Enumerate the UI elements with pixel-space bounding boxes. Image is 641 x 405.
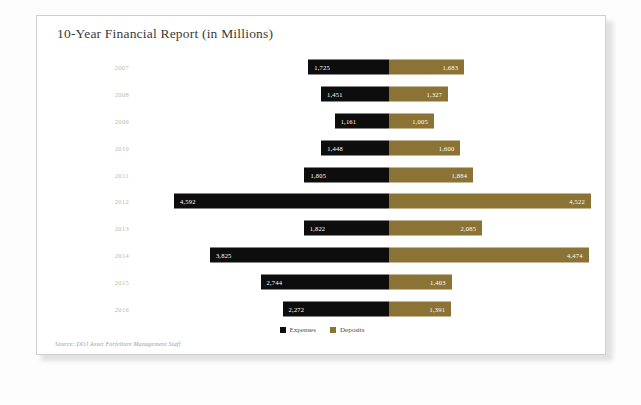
bar-track: 1,4511,327 [37,81,606,108]
chart-row: 20091,1611,005 [37,108,606,135]
bar-deposits[interactable]: 1,683 [389,60,464,75]
chart-row: 20152,7441,403 [37,268,606,295]
bar-track: 2,2721,391 [37,295,606,322]
legend-swatch-deposits [330,327,336,333]
bar-track: 2,7441,403 [37,268,606,295]
bar-deposits[interactable]: 2,085 [389,221,482,236]
chart-legend: ExpensesDeposits [37,326,606,334]
bar-value-deposits: 1,403 [430,278,446,285]
bar-value-deposits: 4,522 [569,198,585,205]
bar-expenses[interactable]: 1,451 [321,87,389,102]
bar-deposits[interactable]: 1,391 [389,301,451,316]
report-card: 10-Year Financial Report (in Millions) 2… [36,15,606,355]
bar-expenses[interactable]: 4,592 [174,194,389,209]
bar-value-expenses: 2,744 [267,278,283,285]
bar-deposits[interactable]: 1,884 [389,167,473,182]
page-root: 10-Year Financial Report (in Millions) 2… [0,0,641,405]
bar-expenses[interactable]: 2,744 [261,274,389,289]
bar-deposits[interactable]: 1,327 [389,87,448,102]
bar-value-deposits: 1,884 [451,171,467,178]
bar-value-expenses: 1,822 [310,225,326,232]
bar-expenses[interactable]: 2,272 [283,301,389,316]
bar-expenses[interactable]: 1,805 [304,167,389,182]
bar-deposits[interactable]: 1,403 [389,274,452,289]
bar-value-deposits: 1,600 [439,144,455,151]
legend-item-expenses[interactable]: Expenses [280,326,316,334]
bar-expenses[interactable]: 3,825 [210,247,389,262]
chart-row: 20124,5924,522 [37,188,606,215]
chart-row: 20101,4481,600 [37,134,606,161]
bar-value-expenses: 3,825 [216,251,232,258]
bar-value-deposits: 1,683 [443,64,459,71]
bar-track: 3,8254,474 [37,242,606,269]
bar-deposits[interactable]: 4,522 [389,194,591,209]
source-note: Source: DOJ Asset Forfeiture Management … [55,341,181,347]
bar-track: 1,8051,884 [37,161,606,188]
bar-expenses[interactable]: 1,822 [304,221,389,236]
bar-track: 1,4481,600 [37,134,606,161]
legend-swatch-expenses [280,327,286,333]
chart-row: 20071,7251,683 [37,54,606,81]
bar-value-deposits: 1,327 [427,91,443,98]
chart-title: 10-Year Financial Report (in Millions) [57,26,273,42]
bar-expenses[interactable]: 1,161 [335,113,389,128]
bar-expenses[interactable]: 1,448 [321,140,389,155]
bar-value-deposits: 4,474 [567,251,583,258]
bar-value-expenses: 2,272 [289,305,305,312]
bar-track: 4,5924,522 [37,188,606,215]
bar-value-expenses: 1,805 [310,171,326,178]
chart-row: 20111,8051,884 [37,161,606,188]
bar-track: 1,1611,005 [37,108,606,135]
bar-value-expenses: 1,725 [314,64,330,71]
legend-item-deposits[interactable]: Deposits [330,326,365,334]
chart-plot-area: 20071,7251,68320081,4511,32720091,1611,0… [37,54,606,322]
bar-deposits[interactable]: 4,474 [389,247,589,262]
chart-row: 20162,2721,391 [37,295,606,322]
legend-label-expenses: Expenses [290,326,316,334]
bar-value-deposits: 2,085 [460,225,476,232]
bar-value-expenses: 1,451 [327,91,343,98]
bar-value-expenses: 1,161 [341,117,357,124]
chart-row: 20131,8222,085 [37,215,606,242]
bar-track: 1,7251,683 [37,54,606,81]
bar-expenses[interactable]: 1,725 [308,60,389,75]
chart-row: 20143,8254,474 [37,242,606,269]
bar-track: 1,8222,085 [37,215,606,242]
bar-deposits[interactable]: 1,600 [389,140,460,155]
chart-row: 20081,4511,327 [37,81,606,108]
bar-value-expenses: 1,448 [327,144,343,151]
bar-value-expenses: 4,592 [180,198,196,205]
bar-value-deposits: 1,391 [429,305,445,312]
bar-deposits[interactable]: 1,005 [389,113,434,128]
legend-label-deposits: Deposits [340,326,365,334]
bar-value-deposits: 1,005 [412,117,428,124]
